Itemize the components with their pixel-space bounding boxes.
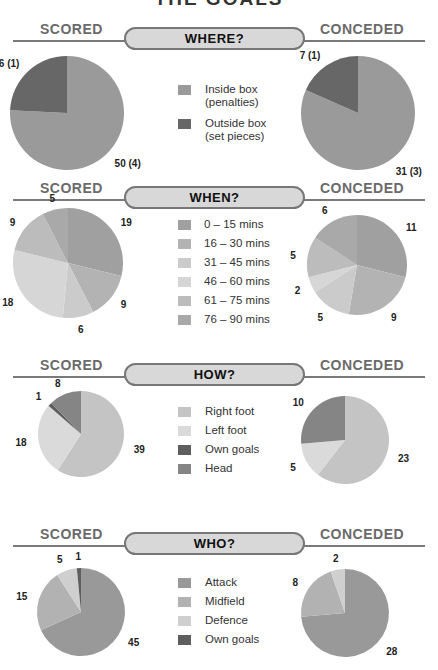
legend-label: Own goals (205, 633, 259, 646)
pie-chart-when-conceded: 1195256 (0, 186, 438, 356)
legend-swatch (178, 220, 191, 230)
legend-swatch (178, 407, 191, 417)
pie-value-label: 2 (295, 285, 301, 296)
pie-value-label: 5 (290, 462, 296, 473)
legend-swatch (178, 258, 191, 268)
pie-value-label: 31 (3) (396, 166, 422, 177)
section-when: SCORED CONCEDED WHEN? 19961895 1195256 0… (0, 186, 438, 336)
legend-swatch (178, 315, 191, 325)
legend-label: 61 – 75 mins (204, 294, 270, 307)
legend-swatch (178, 578, 191, 588)
section-where: SCORED CONCEDED WHERE? 50 (4)16 (1) 31 (… (0, 27, 438, 177)
pie-value-label: 6 (322, 205, 328, 216)
pie-value-label: 5 (290, 250, 296, 261)
legend-label: 0 – 15 mins (204, 218, 263, 231)
legend-label: Own goals (205, 443, 259, 456)
legend-label: Outside box(set pieces) (205, 117, 266, 143)
pie-value-label: 7 (1) (300, 50, 321, 61)
legend-swatch (178, 445, 191, 455)
pie-value-label: 5 (318, 312, 324, 323)
legend-swatch (178, 277, 191, 287)
legend-label: Right foot (205, 405, 254, 418)
pie-slice (301, 396, 345, 444)
legend-swatch (178, 597, 191, 607)
pie-chart-where-conceded: 31 (3)7 (1) (0, 27, 438, 197)
legend-swatch (178, 426, 191, 436)
legend-label: 76 – 90 mins (204, 313, 270, 326)
legend-label: Midfield (205, 595, 245, 608)
legend-label: 46 – 60 mins (204, 275, 270, 288)
legend-label: Inside box(penalties) (205, 83, 259, 109)
legend-label: Defence (205, 614, 248, 627)
legend-label: 31 – 45 mins (204, 256, 270, 269)
legend-swatch (178, 85, 191, 95)
pie-value-label: 2 (333, 553, 339, 564)
legend-swatch (178, 296, 191, 306)
section-who: SCORED CONCEDED WHO? 451551 2882 AttackM… (0, 532, 438, 670)
legend-swatch (178, 119, 191, 129)
legend-swatch (178, 239, 191, 249)
page-title: THE GOALS (0, 0, 438, 10)
pie-value-label: 10 (293, 397, 305, 408)
pie-value-label: 11 (406, 222, 417, 233)
legend-label: Left foot (205, 424, 247, 437)
legend-swatch (178, 635, 191, 645)
legend-swatch (178, 616, 191, 626)
pie-value-label: 23 (398, 453, 410, 464)
pie-value-label: 9 (391, 312, 397, 323)
pie-value-label: 28 (386, 646, 398, 657)
legend-label: Head (205, 462, 233, 475)
section-how: SCORED CONCEDED HOW? 391818 23510 Right … (0, 363, 438, 503)
legend-label: 16 – 30 mins (204, 237, 270, 250)
pie-value-label: 8 (293, 577, 299, 588)
legend-label: Attack (205, 576, 237, 589)
legend-swatch (178, 464, 191, 474)
